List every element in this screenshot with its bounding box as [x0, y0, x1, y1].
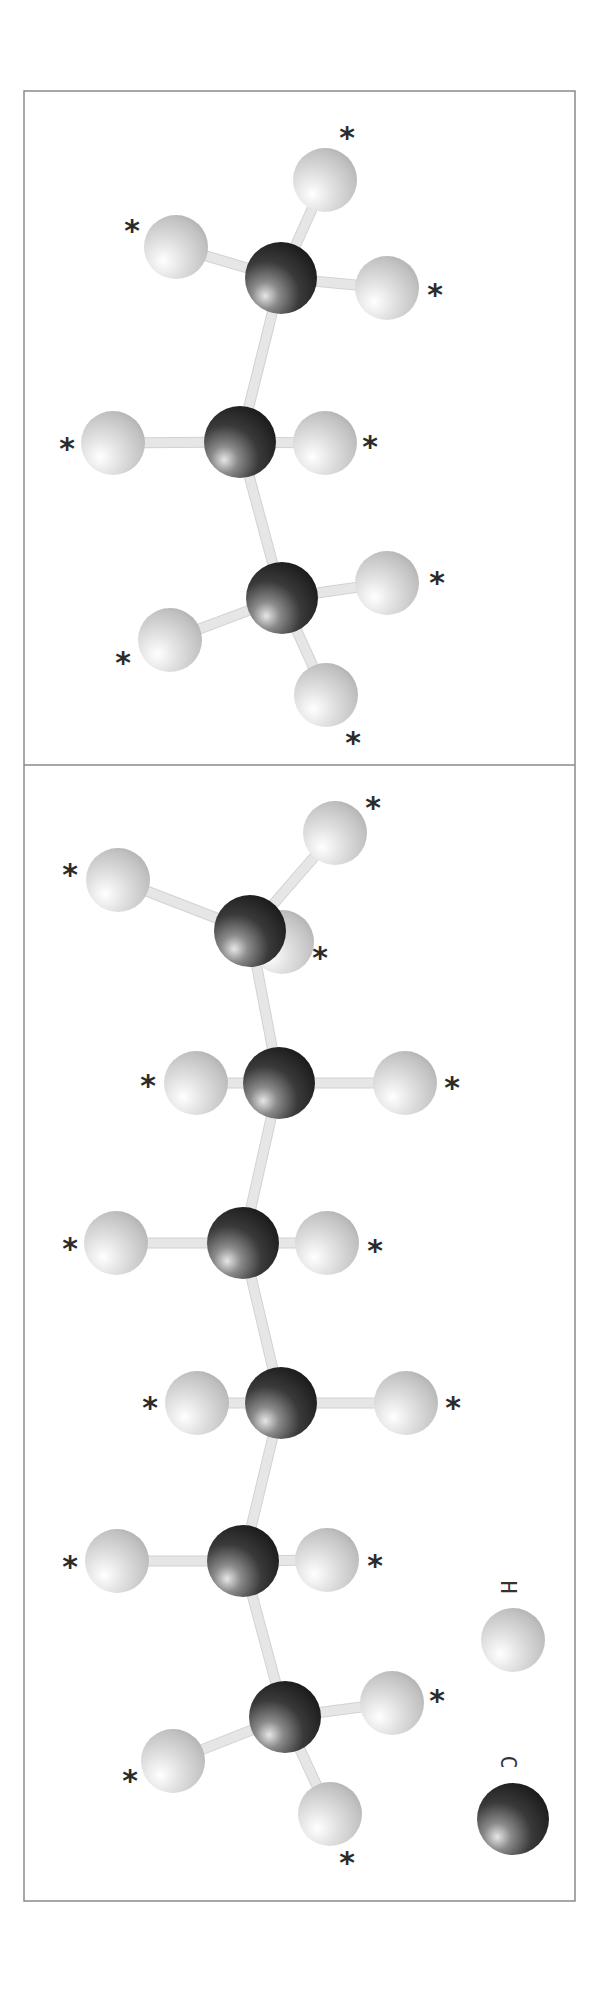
asterisk-marker: *	[367, 1233, 383, 1268]
hydrogen-atom	[165, 1371, 229, 1435]
hydrogen-atom	[84, 1211, 148, 1275]
asterisk-marker: *	[445, 1390, 461, 1425]
asterisk-marker: *	[339, 120, 355, 155]
asterisk-marker: *	[115, 645, 131, 680]
hydrogen-atom	[298, 1782, 362, 1846]
panel-propane: ********	[59, 120, 445, 760]
asterisk-marker: *	[444, 1070, 460, 1105]
hydrogen-atom	[85, 1529, 149, 1593]
asterisk-marker: *	[429, 565, 445, 600]
legend-item-hydrogen: H	[481, 1580, 545, 1672]
hydrogen-atom	[294, 663, 358, 727]
hydrogen-atom	[293, 411, 357, 475]
panel-hexane: **************	[62, 790, 461, 1880]
carbon-atom	[207, 1207, 279, 1279]
molecule-diagram: ******** ************** H C	[0, 0, 610, 1989]
hydrogen-atom	[374, 1371, 438, 1435]
asterisk-marker: *	[62, 857, 78, 892]
hydrogen-atom	[86, 848, 150, 912]
asterisk-marker: *	[59, 431, 75, 466]
hydrogen-atom	[295, 1211, 359, 1275]
carbon-atom	[249, 1681, 321, 1753]
hydrogen-atom	[373, 1051, 437, 1115]
carbon-atom	[207, 1525, 279, 1597]
carbon-atom	[204, 406, 276, 478]
carbon-atom-icon	[477, 1783, 549, 1855]
legend-item-carbon: C	[477, 1755, 549, 1855]
carbon-atom	[246, 562, 318, 634]
asterisk-marker: *	[427, 277, 443, 312]
hydrogen-atom	[355, 256, 419, 320]
hydrogen-atom	[144, 215, 208, 279]
hydrogen-atom	[164, 1051, 228, 1115]
hydrogen-atom	[81, 411, 145, 475]
legend: H C	[477, 1580, 549, 1855]
asterisk-marker: *	[122, 1763, 138, 1798]
asterisk-marker: *	[339, 1845, 355, 1880]
hydrogen-atom	[360, 1671, 424, 1735]
asterisk-marker: *	[429, 1683, 445, 1718]
asterisk-marker: *	[312, 940, 328, 975]
bonds	[116, 833, 406, 1814]
legend-label-hydrogen: H	[496, 1580, 521, 1593]
asterisk-marker: *	[140, 1068, 156, 1103]
hydrogen-atom	[138, 608, 202, 672]
asterisk-marker: *	[62, 1231, 78, 1266]
asterisk-marker: *	[142, 1390, 158, 1425]
carbon-atom	[214, 895, 286, 967]
hydrogen-atom	[303, 801, 367, 865]
hydrogen-atom	[141, 1729, 205, 1793]
asterisk-marker: *	[367, 1548, 383, 1583]
hydrogen-atom	[293, 148, 357, 212]
asterisk-marker: *	[62, 1549, 78, 1584]
asterisk-marker: *	[362, 429, 378, 464]
carbon-atom	[243, 1047, 315, 1119]
carbon-atom	[245, 1367, 317, 1439]
legend-label-carbon: C	[496, 1755, 521, 1768]
hydrogen-atom	[295, 1528, 359, 1592]
asterisk-marker: *	[124, 213, 140, 248]
asterisk-marker: *	[365, 790, 381, 825]
carbon-atom	[245, 242, 317, 314]
hydrogen-atom	[355, 551, 419, 615]
hydrogen-atom-icon	[481, 1608, 545, 1672]
asterisk-marker: *	[345, 725, 361, 760]
